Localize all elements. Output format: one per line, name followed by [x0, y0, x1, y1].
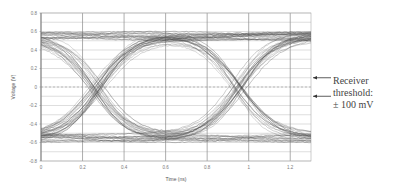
- trace: [41, 49, 311, 143]
- trace: [41, 38, 311, 142]
- trace: [41, 33, 311, 132]
- y-tick-label: -0.8: [29, 159, 37, 164]
- receiver-threshold-annotation: Receiver threshold: ± 100 mV: [333, 75, 374, 111]
- y-tick-label: -0.2: [29, 103, 37, 108]
- x-tick-label: 0.8: [204, 165, 211, 170]
- x-tick-label: 1.2: [287, 165, 294, 170]
- x-tick-label: 0: [40, 165, 43, 170]
- y-tick-label: -0.4: [29, 122, 37, 127]
- y-tick-label: -0.6: [29, 140, 37, 145]
- y-tick-label: 0: [34, 85, 37, 90]
- threshold-arrow-head: [313, 76, 317, 80]
- trace: [41, 32, 311, 136]
- annotation-line-3: ± 100 mV: [333, 99, 374, 111]
- annotation-line-2: threshold:: [333, 87, 374, 99]
- y-axis-label: Voltage (V): [10, 74, 16, 99]
- y-tick-label: 0.8: [31, 11, 38, 16]
- x-tick-label: 0.2: [79, 165, 86, 170]
- x-tick-label: 1: [247, 165, 250, 170]
- trace: [41, 41, 311, 130]
- threshold-arrows: [313, 76, 331, 98]
- threshold-arrow-head: [313, 94, 317, 98]
- trace: [41, 32, 311, 137]
- y-tick-label: 0.4: [31, 48, 38, 53]
- y-tick-label: 0.6: [31, 29, 38, 34]
- y-tick-label: 0.2: [31, 66, 38, 71]
- x-tick-label: 0.4: [121, 165, 128, 170]
- annotation-line-1: Receiver: [333, 75, 374, 87]
- x-tick-label: 0.6: [162, 165, 169, 170]
- x-axis-label: Time (ns): [166, 176, 187, 182]
